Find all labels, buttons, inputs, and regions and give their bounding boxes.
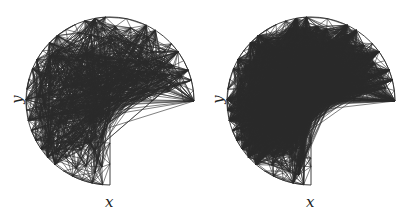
y-axis-label: y [10,95,25,103]
x-axis-label: x [306,195,314,210]
x-axis-label: x [105,195,113,210]
mesh-figure-right: x y [201,0,403,215]
y-axis-label: y [211,95,226,103]
adaptive-mesh-plot [201,0,403,215]
mesh-figure-left: x y [0,0,201,215]
uniform-mesh-plot [0,0,201,215]
